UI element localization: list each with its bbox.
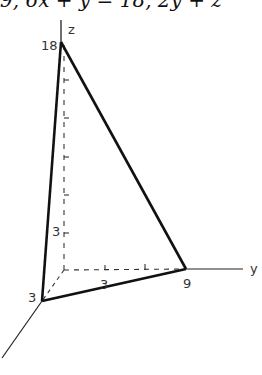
tetrahedron-diagram: z 18 3 3 3 9 y	[0, 0, 262, 375]
edge-x-to-y	[42, 269, 186, 301]
z-intercept-label: 18	[41, 38, 58, 53]
edge-z-to-x	[42, 42, 61, 301]
y-tick-label: 3	[100, 277, 108, 292]
y-axis-dashed	[64, 269, 186, 270]
x-intercept-label: 3	[28, 290, 36, 305]
z-ticks	[64, 80, 69, 233]
z-tick-label: 3	[52, 224, 60, 239]
y-axis-label: y	[250, 261, 258, 276]
x-axis	[2, 301, 42, 358]
edge-z-to-y	[61, 42, 186, 269]
z-axis-label: z	[68, 22, 75, 37]
y-intercept-label: 9	[183, 276, 191, 291]
